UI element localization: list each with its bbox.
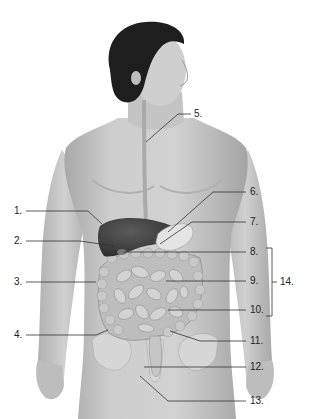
label-11: 11. [250,336,263,346]
label-4: 4. [14,330,22,340]
head [109,22,188,106]
label-2: 2. [14,236,22,246]
label-1: 1. [14,206,22,216]
label-14: 14. [280,277,294,287]
esophagus [144,100,146,225]
label-5: 5. [194,109,202,119]
label-13: 13. [250,396,264,406]
label-7: 7. [250,217,258,227]
label-8: 8. [250,247,258,257]
label-12: 12. [250,362,264,372]
digestive-system-illustration [0,0,310,419]
label-10: 10. [250,305,264,315]
label-9: 9. [250,276,258,286]
label-6: 6. [250,187,258,197]
label-3: 3. [14,277,22,287]
